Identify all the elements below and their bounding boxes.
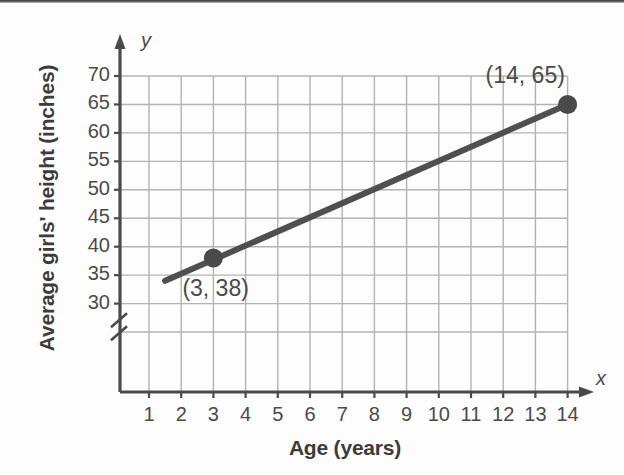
x-axis-arrow [579, 387, 594, 398]
chart-figure: Average girls' height (inches) Age (year… [0, 0, 624, 475]
y-tick-label: 45 [66, 205, 110, 228]
y-axis-letter: y [141, 29, 151, 52]
data-point-label: (14, 65) [486, 62, 565, 89]
y-axis-title: Average girls' height (inches) [35, 43, 59, 373]
series-line [165, 104, 567, 280]
y-tick-label: 50 [66, 177, 110, 200]
data-point-marker[interactable] [558, 95, 577, 114]
data-point-label: (3, 38) [182, 275, 248, 302]
y-tick-label: 65 [66, 91, 110, 114]
y-tick-label: 60 [66, 120, 110, 143]
y-tick-label: 55 [66, 148, 110, 171]
y-axis-arrow [115, 34, 126, 49]
y-tick-label: 30 [66, 291, 110, 314]
y-tick-label: 35 [66, 262, 110, 285]
x-axis-letter: x [596, 367, 606, 390]
x-axis-title: Age (years) [120, 436, 570, 460]
data-point-marker[interactable] [204, 249, 223, 268]
y-tick-label: 70 [66, 63, 110, 86]
grid-lines [120, 76, 568, 392]
data-line [165, 104, 567, 280]
x-tick-label: 14 [548, 403, 588, 426]
y-tick-label: 40 [66, 234, 110, 257]
tick-marks [114, 76, 568, 398]
